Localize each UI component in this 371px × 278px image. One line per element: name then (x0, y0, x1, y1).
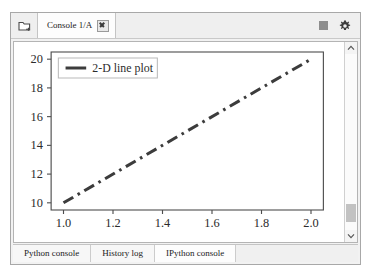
scrollbar-thumb[interactable] (346, 204, 356, 222)
scroll-up-button[interactable] (345, 42, 357, 54)
vertical-scrollbar[interactable] (344, 42, 357, 242)
bottom-tab-filler (236, 245, 358, 262)
scroll-down-button[interactable] (345, 230, 357, 242)
matplotlib-figure: 1.01.21.41.61.82.01012141618202-D line p… (14, 42, 344, 242)
bottom-tab-bar: Python console History log IPython conso… (13, 244, 358, 262)
tabbar-spacer (178, 13, 319, 38)
bottom-tab-label: IPython console (166, 249, 224, 258)
chevron-up-icon (347, 45, 355, 51)
chevron-down-icon (347, 233, 355, 239)
bottom-tab-ipython-console[interactable]: IPython console (155, 245, 236, 262)
x-tick-label: 1.6 (204, 216, 219, 230)
scrollbar-track[interactable] (345, 54, 357, 230)
browse-tabs-button[interactable] (11, 13, 37, 38)
y-tick-label: 12 (31, 167, 43, 181)
gear-icon[interactable] (339, 20, 351, 32)
x-tick-label: 1.2 (105, 216, 120, 230)
y-tick-label: 20 (31, 52, 43, 66)
bottom-tab-label: History log (102, 249, 143, 258)
x-tick-label: 2.0 (303, 216, 318, 230)
stop-square-icon[interactable] (319, 21, 328, 30)
y-tick-label: 10 (31, 196, 43, 210)
console-output-area: 1.01.21.41.61.82.01012141618202-D line p… (13, 41, 358, 243)
y-tick-label: 14 (31, 139, 43, 153)
console-window: Console 1/A 1.01.21.41.61.82.01012141618… (10, 12, 361, 265)
y-tick-label: 18 (31, 81, 43, 95)
bottom-tab-python-console[interactable]: Python console (13, 245, 91, 262)
console-tabbar: Console 1/A (11, 13, 360, 39)
folder-icon (18, 20, 31, 32)
tabbar-tools (319, 13, 360, 38)
x-tick-label: 1.0 (56, 216, 71, 230)
bottom-tab-history-log[interactable]: History log (91, 245, 155, 262)
x-tick-label: 1.4 (155, 216, 170, 230)
tab-console-1a[interactable]: Console 1/A (37, 13, 116, 38)
x-tick-label: 1.8 (254, 216, 269, 230)
plot-pane: 1.01.21.41.61.82.01012141618202-D line p… (14, 42, 344, 242)
legend-label: 2-D line plot (92, 62, 153, 75)
y-tick-label: 16 (31, 110, 43, 124)
tab-label: Console 1/A (47, 21, 92, 30)
close-icon[interactable] (97, 20, 109, 32)
bottom-tab-label: Python console (24, 249, 79, 258)
tab-strip: Console 1/A (37, 13, 178, 38)
